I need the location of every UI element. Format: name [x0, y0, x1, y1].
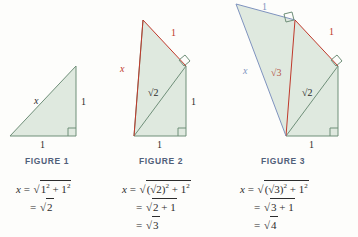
figure-2-label-new-side: 1 [171, 27, 176, 38]
figure-2-graphic: x 1 √2 1 1 [119, 20, 196, 150]
figure-3-graphic: x 1 √3 1 √2 1 [236, 1, 342, 150]
equation-operator: = [136, 201, 142, 213]
figure-panel: x 1 1 x 1 √2 1 1 [0, 0, 358, 237]
figure-3-label-inner-red: √3 [271, 67, 282, 78]
radical: √(√3)2 + 12 [257, 180, 309, 198]
radical: √3 + 1 [263, 198, 295, 216]
equation-operator: = [254, 201, 260, 213]
radical: √12 + 12 [33, 180, 72, 198]
figure-3-equations: x = √(√3)2 + 12 = √3 + 1 = √4 [240, 180, 309, 234]
figure-2-label-inner-diagonal: √2 [148, 87, 159, 98]
radical: √2 + 1 [145, 198, 177, 216]
figure-2-label-horizontal: 1 [157, 139, 162, 150]
figure-3-caption: FIGURE 3 [261, 156, 305, 166]
figure-2-label-hypotenuse: x [119, 63, 125, 74]
figure-3-label-top-side: 1 [262, 1, 267, 12]
equation-operator: = [254, 219, 260, 231]
radical: √4 [263, 216, 278, 234]
figure-2-label-vertical: 1 [191, 96, 196, 107]
equation-line: x = √(√2)2 + 12 [122, 180, 191, 198]
equation-operator: = [24, 183, 30, 195]
figures-canvas: x 1 1 x 1 √2 1 1 [0, 0, 358, 176]
equation-line: = √2 + 1 [122, 198, 191, 216]
figure-3-label-horizontal: 1 [309, 139, 314, 150]
equation-operator: = [130, 183, 136, 195]
radical: √3 [145, 216, 160, 234]
equation-lhs: x [16, 183, 21, 195]
equation-line: = √2 [16, 198, 71, 216]
figure-1-graphic: x 1 1 [10, 66, 86, 150]
equation-lhs: x [240, 183, 245, 195]
equation-line: = √3 + 1 [240, 198, 309, 216]
figure-1-label-hypotenuse: x [33, 95, 39, 106]
figure-3-label-hypotenuse: x [242, 65, 248, 76]
equation-line: x = √12 + 12 [16, 180, 71, 198]
radical: √(√2)2 + 12 [139, 180, 191, 198]
figure-1-label-horizontal: 1 [40, 139, 45, 150]
figure-3-region [236, 4, 338, 136]
equation-lhs: x [122, 183, 127, 195]
figure-1-label-vertical: 1 [81, 96, 86, 107]
equation-operator: = [136, 219, 142, 231]
equation-operator: = [30, 201, 36, 213]
figure-1-caption: FIGURE 1 [25, 156, 69, 166]
equation-operator: = [248, 183, 254, 195]
figure-1-triangle [10, 66, 76, 136]
figure-3-label-right-side: 1 [329, 26, 334, 37]
figure-3-label-inner-diagonal: √2 [302, 87, 313, 98]
equation-line: x = √(√3)2 + 12 [240, 180, 309, 198]
radical: √2 [39, 198, 54, 216]
equation-line: = √3 [122, 216, 191, 234]
figure-1-equations: x = √12 + 12 = √2 [16, 180, 71, 216]
figure-2-equations: x = √(√2)2 + 12 = √2 + 1 = √3 [122, 180, 191, 234]
figure-2-caption: FIGURE 2 [139, 156, 183, 166]
equation-line: = √4 [240, 216, 309, 234]
